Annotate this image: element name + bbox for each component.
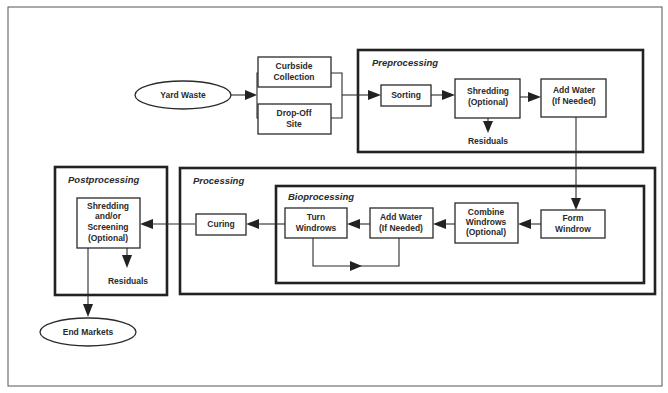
node-sorting-label: Sorting (391, 90, 421, 100)
node-post-shredding-line4: (Optional) (88, 233, 128, 243)
node-post-shredding-line1: Shredding (87, 201, 129, 211)
node-post-shredding: Shredding and/or Screening (Optional) (77, 198, 140, 248)
node-yard-waste-label: Yard Waste (160, 90, 206, 100)
node-combine-windrows: Combine Windrows (Optional) (455, 203, 518, 243)
node-form-windrow-line1: Form (562, 213, 584, 223)
node-curing: Curing (196, 214, 246, 235)
node-dropoff-line2: Site (286, 119, 302, 129)
node-shredding-line2: (Optional) (468, 97, 508, 107)
node-shredding: Shredding (Optional) (455, 79, 520, 118)
node-add-water-pre-line1: Add Water (553, 85, 596, 95)
node-add-water-bio-line2: (If Needed) (379, 223, 423, 233)
node-curbside-line1: Curbside (276, 61, 313, 71)
composting-flowchart: Preprocessing Processing Bioprocessing P… (0, 0, 668, 393)
node-sorting: Sorting (381, 85, 431, 106)
node-combine-line2: Windrows (466, 217, 507, 227)
node-combine-line3: (Optional) (466, 227, 506, 237)
node-turn-windrows: Turn Windrows (285, 208, 347, 238)
node-add-water-pre: Add Water (If Needed) (541, 79, 606, 117)
node-combine-line1: Combine (468, 207, 505, 217)
node-add-water-bio: Add Water (If Needed) (370, 208, 433, 238)
node-form-windrow: Form Windrow (541, 210, 605, 238)
node-turn-line2: Windrows (296, 223, 337, 233)
node-yard-waste: Yard Waste (135, 81, 231, 109)
preprocessing-title: Preprocessing (372, 57, 438, 68)
node-post-shredding-line3: Screening (87, 222, 128, 232)
residuals-post-label: Residuals (108, 276, 148, 286)
node-curing-label: Curing (207, 219, 234, 229)
node-add-water-bio-line1: Add Water (380, 212, 423, 222)
residuals-pre-label: Residuals (468, 136, 508, 146)
node-form-windrow-line2: Windrow (555, 224, 591, 234)
bioprocessing-title: Bioprocessing (288, 191, 354, 202)
node-shredding-line1: Shredding (467, 86, 509, 96)
node-end-markets: End Markets (40, 318, 136, 346)
processing-title: Processing (193, 175, 244, 186)
postprocessing-title: Postprocessing (68, 174, 139, 185)
node-dropoff-line1: Drop-Off (277, 108, 312, 118)
node-end-markets-label: End Markets (63, 327, 114, 337)
node-drop-off-site: Drop-Off Site (258, 104, 331, 134)
node-curbside-line2: Collection (273, 72, 314, 82)
node-post-shredding-line2: and/or (95, 211, 122, 221)
node-add-water-pre-line2: (If Needed) (552, 96, 596, 106)
node-turn-line1: Turn (307, 212, 325, 222)
node-curbside-collection: Curbside Collection (258, 57, 331, 87)
arrow-head (245, 90, 257, 100)
